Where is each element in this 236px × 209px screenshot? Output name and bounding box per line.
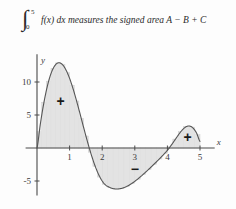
- figure-caption: ∫ 5 0 f(x) dx measures the signed area A…: [0, 0, 236, 40]
- integral-expression: ∫ 5 0: [22, 9, 39, 31]
- y-tick-label: -5: [24, 176, 32, 186]
- x-axis-label: x: [216, 137, 221, 147]
- x-tick-label: 4: [165, 152, 170, 162]
- region-sign-a: +: [56, 93, 64, 109]
- region-sign-b: −: [131, 161, 139, 177]
- x-tick-label: 2: [100, 152, 105, 162]
- caption-inner: ∫ 5 0 f(x) dx measures the signed area A…: [22, 9, 206, 31]
- signed-area-integral-figure: ∫ 5 0 f(x) dx measures the signed area A…: [0, 0, 236, 209]
- function-plot: 12345510-5 +−+ y x: [0, 36, 236, 209]
- integral-lower-limit: 0: [26, 23, 30, 31]
- x-tick-label: 1: [67, 152, 72, 162]
- shaded-area-a: [37, 63, 102, 181]
- caption-text: f(x) dx measures the signed area A − B +…: [41, 15, 206, 25]
- integral-upper-limit: 5: [31, 8, 35, 16]
- y-tick-label: 10: [22, 77, 32, 87]
- y-axis-label: y: [40, 55, 45, 65]
- region-sign-c: +: [184, 129, 192, 145]
- x-tick-label: 5: [198, 152, 203, 162]
- y-tick-label: 5: [27, 110, 32, 120]
